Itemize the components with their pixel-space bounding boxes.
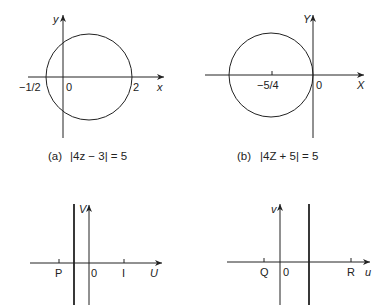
caption-tag-a: (a) — [48, 150, 62, 162]
y-axis-label: y — [52, 13, 60, 25]
caption-tag-b: (b) — [237, 150, 251, 162]
tick-label-2: 2 — [133, 81, 139, 93]
v-axis-label: V — [79, 203, 88, 215]
tick-label-neg-five-quarters: −5/4 — [257, 79, 279, 91]
y-axis-label: Y — [303, 13, 311, 25]
v-axis-label: v — [271, 203, 278, 215]
origin-label: 0 — [66, 81, 72, 93]
panel-a: y x 0 −1/2 2 (a) |4z − 3| = 5 — [19, 13, 164, 162]
panel-c: V U 0 P I — [30, 203, 162, 305]
figure-canvas: y x 0 −1/2 2 (a) |4z − 3| = 5 Y X 0 −5/4… — [0, 0, 389, 305]
tick-label-r: R — [347, 266, 355, 278]
tick-label-neg-half: −1/2 — [19, 81, 41, 93]
u-axis-label: u — [365, 266, 371, 278]
tick-label-p: P — [55, 267, 62, 279]
x-axis-label: x — [156, 81, 163, 93]
origin-label: 0 — [283, 266, 289, 278]
caption-eq-b: |4Z + 5| = 5 — [260, 150, 318, 162]
tick-label-i: I — [122, 267, 125, 279]
panel-b: Y X 0 −5/4 (b) |4Z + 5| = 5 — [205, 13, 365, 162]
caption-eq-a: |4z − 3| = 5 — [70, 150, 127, 162]
origin-label: 0 — [316, 79, 322, 91]
x-axis-label: X — [356, 79, 365, 91]
panel-d: v u 0 Q R — [227, 203, 371, 305]
origin-label: 0 — [91, 267, 97, 279]
tick-label-q: Q — [260, 266, 269, 278]
u-axis-label: U — [150, 267, 158, 279]
